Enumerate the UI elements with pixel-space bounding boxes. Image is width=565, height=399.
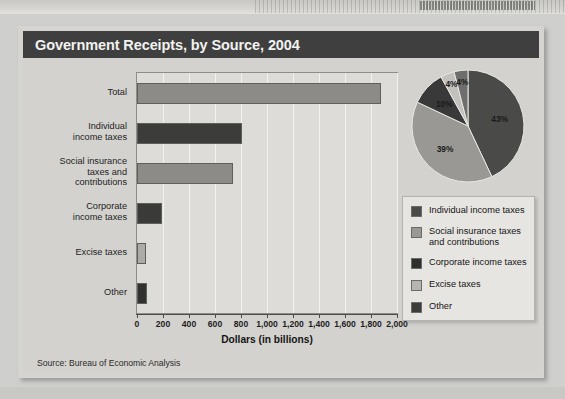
x-tick-label: 600 — [208, 319, 222, 329]
bar-2 — [137, 123, 242, 144]
x-tick — [267, 314, 268, 318]
x-tick — [319, 314, 320, 318]
x-tick-label: 1,200 — [282, 319, 304, 329]
x-tick-label: 0 — [135, 319, 140, 329]
bar-plot-area — [136, 72, 398, 314]
legend-item-2: Social insurance taxes and contributions — [411, 226, 521, 248]
legend-item-5: Other — [411, 301, 452, 313]
legend-label: Excise taxes — [429, 279, 481, 290]
grid-line — [345, 73, 346, 313]
legend-item-4: Excise taxes — [411, 279, 481, 291]
chart-title-bar: Government Receipts, by Source, 2004 — [23, 31, 539, 58]
bar-category-label: Other — [104, 287, 127, 298]
x-tick-label: 1,600 — [334, 319, 356, 329]
x-tick-label: 1,400 — [308, 319, 330, 329]
x-tick-label: 400 — [182, 319, 196, 329]
grid-line — [215, 73, 216, 313]
bar-category-label: Corporate income taxes — [73, 201, 127, 222]
grid-line — [397, 73, 398, 313]
x-tick — [371, 314, 372, 318]
chart-body: TotalIndividual income taxesSocial insur… — [23, 58, 539, 373]
bar-category-label: Excise taxes — [75, 247, 127, 258]
x-tick — [397, 314, 398, 318]
legend-label: Social insurance taxes and contributions — [429, 226, 521, 248]
x-tick-label: 200 — [156, 319, 170, 329]
pie-percent-label: 39% — [437, 144, 454, 154]
legend-swatch-icon — [411, 206, 422, 217]
x-tick — [137, 314, 138, 318]
pie-percent-label: 4% — [456, 77, 468, 87]
figure-root: Government Receipts, by Source, 2004 Tot… — [0, 0, 565, 399]
pie-percent-label: 43% — [491, 114, 508, 124]
chart-legend: Individual income taxesSocial insurance … — [402, 196, 535, 321]
x-tick — [215, 314, 216, 318]
legend-label: Corporate income taxes — [429, 257, 527, 268]
grid-line — [267, 73, 268, 313]
legend-item-3: Corporate income taxes — [411, 257, 527, 269]
bar-3 — [137, 163, 233, 184]
grid-line — [189, 73, 190, 313]
legend-label: Individual income taxes — [429, 205, 525, 216]
bar-chart-panel: TotalIndividual income taxesSocial insur… — [23, 58, 393, 373]
bar-category-labels: TotalIndividual income taxesSocial insur… — [23, 72, 133, 314]
legend-swatch-icon — [411, 302, 422, 313]
legend-swatch-icon — [411, 258, 422, 269]
x-tick — [345, 314, 346, 318]
x-tick-label: 1,800 — [360, 319, 382, 329]
x-tick — [163, 314, 164, 318]
bar-5 — [137, 243, 146, 264]
pie-chart: 43%39%10%4%4% — [408, 66, 533, 191]
chart-card: Government Receipts, by Source, 2004 Tot… — [18, 26, 544, 378]
grid-line — [371, 73, 372, 313]
bar-1 — [137, 83, 381, 104]
bar-category-label: Social insurance taxes and contributions — [60, 156, 127, 188]
x-tick — [293, 314, 294, 318]
x-tick — [189, 314, 190, 318]
source-note: Source: Bureau of Economic Analysis — [37, 358, 180, 368]
grid-line — [241, 73, 242, 313]
scan-artifact-texture-dark — [420, 1, 535, 10]
legend-label: Other — [429, 301, 452, 312]
bar-4 — [137, 203, 162, 224]
legend-swatch-icon — [411, 227, 422, 238]
legend-swatch-icon — [411, 280, 422, 291]
bar-category-label: Total — [108, 87, 127, 98]
x-tick-label: 1,000 — [256, 319, 278, 329]
grid-line — [293, 73, 294, 313]
page-title: Government Receipts, by Source, 2004 — [23, 37, 300, 53]
bar-category-label: Individual income taxes — [73, 121, 127, 142]
pie-svg — [408, 66, 533, 191]
scan-artifact-top — [0, 0, 565, 14]
grid-line — [319, 73, 320, 313]
bar-6 — [137, 283, 147, 304]
x-tick — [241, 314, 242, 318]
grid-line — [163, 73, 164, 313]
scan-artifact-bottom — [0, 387, 565, 399]
x-axis-title: Dollars (in billions) — [136, 334, 398, 345]
pie-percent-label: 10% — [436, 99, 453, 109]
x-tick-label: 800 — [234, 319, 248, 329]
legend-item-1: Individual income taxes — [411, 205, 525, 217]
